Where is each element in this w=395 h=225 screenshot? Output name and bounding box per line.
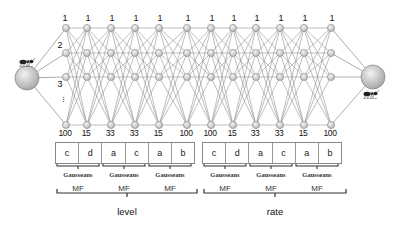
neuron-node <box>207 24 214 31</box>
mf-text: MF <box>109 185 138 193</box>
top-node-label: 1 <box>254 14 259 23</box>
neuron-node <box>62 24 69 31</box>
neuron-node <box>276 24 283 31</box>
neuron-node <box>252 73 259 80</box>
bottom-node-label: 100 <box>59 129 72 138</box>
neuron-node <box>155 73 162 80</box>
mf-label: GausseansMF <box>63 172 92 193</box>
neuron-node <box>107 49 114 56</box>
neuron-node <box>207 49 214 56</box>
connection-edges <box>27 28 373 125</box>
mf-text: MF <box>210 185 239 193</box>
network-svg <box>0 0 395 225</box>
neuron-node <box>155 49 162 56</box>
row-label: 3 <box>57 80 62 89</box>
top-node-label: 1 <box>185 14 190 23</box>
mf-cell: c <box>273 143 296 163</box>
neuron-node <box>83 49 90 56</box>
neuron-node <box>183 49 190 56</box>
row-label: 2 <box>57 41 62 50</box>
mf-label: GausseansMF <box>256 172 285 193</box>
neuron-node <box>131 24 138 31</box>
top-node-label: 1 <box>278 14 283 23</box>
neuron-node <box>327 49 334 56</box>
neuron-node <box>300 73 307 80</box>
mf-cell: c <box>203 143 226 163</box>
neuron-node <box>327 73 334 80</box>
neuron-node <box>183 73 190 80</box>
bottom-node-label: 15 <box>299 129 308 138</box>
bottom-node-label: 33 <box>130 129 139 138</box>
neuron-node <box>83 73 90 80</box>
top-node-label: 1 <box>209 14 214 23</box>
neuron-node <box>229 24 236 31</box>
bottom-node-label: 15 <box>154 129 163 138</box>
gaussian-label: Gausseans <box>155 172 184 179</box>
mf-label: GausseansMF <box>210 172 239 193</box>
neuron-node <box>229 73 236 80</box>
mf-label: GausseansMF <box>302 172 331 193</box>
bottom-node-label: 15 <box>82 129 91 138</box>
neuron-node <box>229 49 236 56</box>
bottom-node-label: 100 <box>180 129 193 138</box>
neuron-node <box>300 49 307 56</box>
neuron-node <box>155 24 162 31</box>
neuron-node <box>327 24 334 31</box>
top-node-label: 1 <box>231 14 236 23</box>
mf-cell: b <box>319 143 341 163</box>
gaussian-label: Gausseans <box>210 172 239 179</box>
mf-cell: a <box>296 143 319 163</box>
neuron-node <box>83 24 90 31</box>
ant-icon <box>363 90 379 99</box>
neuron-node <box>131 73 138 80</box>
mf-text: MF <box>63 185 92 193</box>
mf-label: GausseansMF <box>109 172 138 193</box>
top-node-label: 1 <box>109 14 114 23</box>
mf-cell: c <box>56 143 79 163</box>
bottom-node-label: 33 <box>106 129 115 138</box>
top-node-label: 1 <box>157 14 162 23</box>
top-node-label: 1 <box>133 14 138 23</box>
top-node-label: 1 <box>329 14 334 23</box>
neuron-node <box>62 49 69 56</box>
neuron-node <box>107 24 114 31</box>
group-label-level: level <box>117 206 137 217</box>
top-node-label: 1 <box>302 14 307 23</box>
gaussian-label: Gausseans <box>109 172 138 179</box>
neuron-node <box>131 49 138 56</box>
mf-cell: a <box>249 143 272 163</box>
mf-text: MF <box>256 185 285 193</box>
input-node <box>15 58 39 90</box>
network-diagram: 1111111111111001533331510010015333315100… <box>0 0 395 225</box>
mf-text: MF <box>155 185 184 193</box>
mf-text: MF <box>302 185 331 193</box>
mf-cell: a <box>102 143 125 163</box>
top-node-label: 1 <box>85 14 90 23</box>
bottom-node-label: 100 <box>204 129 217 138</box>
bottom-node-label: 15 <box>228 129 237 138</box>
ellipsis-label: ··· <box>59 96 68 102</box>
mf-cell: b <box>172 143 194 163</box>
gaussian-label: Gausseans <box>256 172 285 179</box>
neuron-node <box>252 24 259 31</box>
neuron-node <box>276 73 283 80</box>
neuron-node <box>300 24 307 31</box>
gaussian-label: Gausseans <box>63 172 92 179</box>
neuron-node <box>62 73 69 80</box>
mf-cell: d <box>79 143 102 163</box>
mf-cell: c <box>126 143 149 163</box>
bottom-node-label: 100 <box>324 129 337 138</box>
neuron-node <box>207 73 214 80</box>
gaussian-label: Gausseans <box>302 172 331 179</box>
mf-box-group-level: cdacab <box>55 142 195 164</box>
neuron-node <box>183 24 190 31</box>
mf-box-group-rate: cdacab <box>202 142 342 164</box>
neuron-node <box>107 73 114 80</box>
neuron-node <box>252 49 259 56</box>
bottom-node-label: 33 <box>275 129 284 138</box>
bottom-node-label: 33 <box>251 129 260 138</box>
group-label-rate: rate <box>267 206 283 217</box>
ant-icon <box>19 58 35 67</box>
mf-cell: a <box>149 143 172 163</box>
neuron-node <box>276 49 283 56</box>
